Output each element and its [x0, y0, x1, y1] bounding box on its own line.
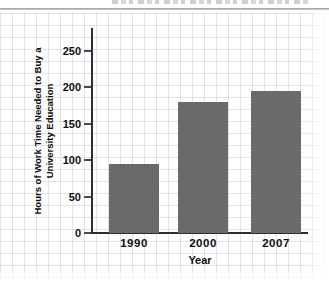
y-tick-label: 0	[47, 228, 81, 239]
grid-fade-bottom	[0, 267, 329, 283]
x-category-label: 1990	[120, 237, 148, 249]
y-tick-mark	[84, 232, 91, 234]
y-tick-mark	[84, 86, 91, 88]
y-tick-label: 100	[47, 155, 81, 166]
bar-2007	[251, 91, 301, 233]
bar-2000	[178, 102, 228, 233]
y-tick-mark	[84, 196, 91, 198]
y-tick-label: 150	[47, 119, 81, 130]
plot-area: Year 050100150200250199020002007	[93, 28, 308, 233]
x-axis-title: Year	[188, 254, 211, 266]
x-category-label: 2000	[189, 237, 217, 249]
y-tick-mark	[84, 50, 91, 52]
y-tick-mark	[84, 123, 91, 125]
y-tick-mark	[84, 159, 91, 161]
y-axis-line	[91, 28, 93, 234]
page: Hours of Work Time Needed to Buy a Unive…	[0, 0, 329, 292]
y-axis-title-line1: Hours of Work Time Needed to Buy a	[32, 16, 44, 246]
y-tick-label: 50	[47, 192, 81, 203]
x-category-label: 2007	[262, 237, 290, 249]
clipped-page-header-text	[112, 0, 308, 4]
bar-1990	[109, 164, 159, 233]
y-tick-label: 250	[47, 46, 81, 57]
y-tick-label: 200	[47, 82, 81, 93]
top-divider	[0, 8, 329, 10]
